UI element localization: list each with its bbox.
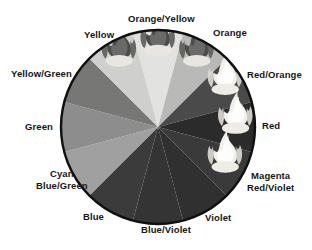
wheel-label-yellow-green: Yellow/Green <box>11 68 72 79</box>
wheel-label-magenta-red-violet: Magenta Red/Violet <box>247 170 294 193</box>
wheel-label-cyan-line2: Blue/Green <box>36 180 88 192</box>
wheel-label-magenta-line1: Magenta <box>247 170 294 182</box>
wheel-label-blue: Blue <box>83 211 104 222</box>
wheel-label-magenta-line2: Red/Violet <box>247 182 294 194</box>
wheel-label-cyan-line1: Cyan <box>36 168 88 180</box>
wheel-label-red: Red <box>262 120 280 131</box>
wheel-label-orange-yellow: Orange/Yellow <box>128 13 195 24</box>
wheel-label-violet: Violet <box>205 212 231 223</box>
color-wheel-figure: Yellow Orange/Yellow Orange Red/Orange R… <box>0 0 312 250</box>
wheel-label-yellow: Yellow <box>84 29 114 40</box>
wheel-label-cyan-blue-green: Cyan Blue/Green <box>36 168 88 191</box>
wheel-label-orange: Orange <box>213 27 247 38</box>
wheel-label-green: Green <box>25 121 53 132</box>
wheel-label-red-orange: Red/Orange <box>247 69 302 80</box>
wheel-label-blue-violet: Blue/Violet <box>141 224 191 235</box>
